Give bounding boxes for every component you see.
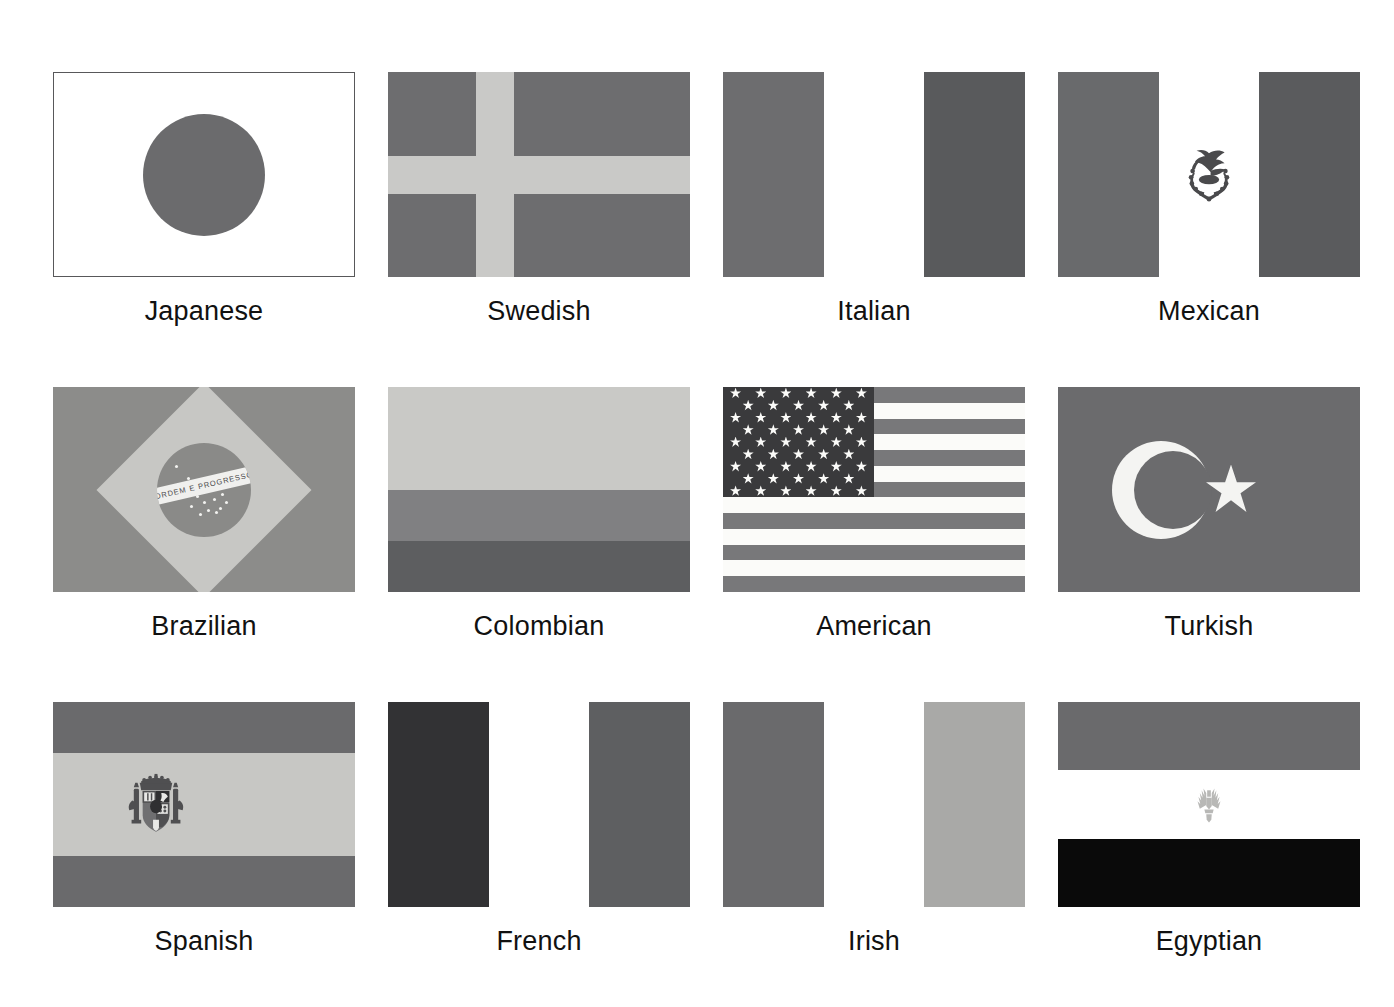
colombian-band-2 xyxy=(388,541,690,592)
french-tricolor-bands xyxy=(388,702,690,907)
egyptian-band-0 xyxy=(1058,702,1360,770)
american-star xyxy=(743,473,754,484)
american-stripe xyxy=(723,497,1025,513)
american-star xyxy=(856,388,867,399)
american-star xyxy=(818,473,829,484)
spanish-band-2 xyxy=(53,856,355,907)
american-star xyxy=(806,485,817,496)
flag-image-mexican xyxy=(1058,72,1360,277)
american-star xyxy=(843,473,854,484)
american-star xyxy=(768,449,779,460)
egyptian-band-2 xyxy=(1058,839,1360,907)
american-star xyxy=(793,400,804,411)
flag-label-brazilian: Brazilian xyxy=(53,611,355,642)
flag-image-italian xyxy=(723,72,1025,277)
flag-cell-swedish[interactable]: Swedish xyxy=(388,72,723,387)
american-star xyxy=(818,400,829,411)
american-star xyxy=(730,412,741,423)
american-star xyxy=(818,424,829,435)
flag-image-american xyxy=(723,387,1025,592)
french-band-2 xyxy=(589,702,690,907)
american-star xyxy=(755,485,766,496)
spanish-coat-of-arms-icon xyxy=(119,768,193,842)
flag-image-brazilian: ORDEM E PROGRESSO xyxy=(53,387,355,592)
italian-band-1 xyxy=(824,72,925,277)
flag-cell-egyptian[interactable]: Egyptian xyxy=(1058,702,1393,1007)
flag-cell-spanish[interactable]: Spanish xyxy=(53,702,388,1007)
colombian-band-1 xyxy=(388,490,690,541)
flag-cell-french[interactable]: French xyxy=(388,702,723,1007)
flag-label-italian: Italian xyxy=(723,296,1025,327)
flag-cell-american[interactable]: American xyxy=(723,387,1058,702)
flag-image-egyptian xyxy=(1058,702,1360,907)
flag-cell-italian[interactable]: Italian xyxy=(723,72,1058,387)
nordic-cross-vertical-icon xyxy=(476,72,514,277)
american-star xyxy=(780,388,791,399)
flag-image-french xyxy=(388,702,690,907)
colombian-tricolor-bands xyxy=(388,387,690,592)
american-star xyxy=(730,461,741,472)
flag-cell-turkish[interactable]: Turkish xyxy=(1058,387,1393,702)
irish-band-0 xyxy=(723,702,824,907)
flag-cell-brazilian[interactable]: ORDEM E PROGRESSO Brazilian xyxy=(53,387,388,702)
american-star xyxy=(843,449,854,460)
irish-band-1 xyxy=(824,702,925,907)
american-star xyxy=(806,412,817,423)
american-star xyxy=(780,461,791,472)
american-star xyxy=(793,473,804,484)
spanish-band-0 xyxy=(53,702,355,753)
flag-image-spanish xyxy=(53,702,355,907)
flag-image-colombian xyxy=(388,387,690,592)
italian-tricolor-bands xyxy=(723,72,1025,277)
american-star xyxy=(843,400,854,411)
flag-label-spanish: Spanish xyxy=(53,926,355,957)
american-star xyxy=(730,437,741,448)
red-sun-disc-icon xyxy=(143,114,265,236)
american-star xyxy=(730,485,741,496)
american-star xyxy=(780,437,791,448)
american-star xyxy=(768,424,779,435)
flag-label-turkish: Turkish xyxy=(1058,611,1360,642)
flag-label-american: American xyxy=(723,611,1025,642)
american-star xyxy=(856,485,867,496)
american-star xyxy=(856,437,867,448)
flag-cell-japanese[interactable]: Japanese xyxy=(53,72,388,387)
american-canton xyxy=(723,387,874,497)
american-star xyxy=(793,424,804,435)
flag-image-turkish xyxy=(1058,387,1360,592)
american-star xyxy=(768,473,779,484)
american-star xyxy=(843,424,854,435)
colombian-band-0 xyxy=(388,387,690,490)
american-star xyxy=(768,400,779,411)
flag-cell-colombian[interactable]: Colombian xyxy=(388,387,723,702)
crescent-cutout xyxy=(1134,451,1212,529)
irish-band-2 xyxy=(924,702,1025,907)
flag-cell-irish[interactable]: Irish xyxy=(723,702,1058,1007)
american-star xyxy=(793,449,804,460)
american-star xyxy=(743,449,754,460)
american-star xyxy=(856,461,867,472)
mexican-band-0 xyxy=(1058,72,1159,277)
american-star xyxy=(780,485,791,496)
flag-label-japanese: Japanese xyxy=(53,296,355,327)
spanish-bands xyxy=(53,702,355,907)
flag-label-egyptian: Egyptian xyxy=(1058,926,1360,957)
american-star xyxy=(806,461,817,472)
mexican-coat-of-arms-eagle-icon xyxy=(1170,136,1248,214)
american-star xyxy=(831,412,842,423)
american-star xyxy=(831,437,842,448)
american-stripe xyxy=(723,560,1025,576)
flag-cell-mexican[interactable]: Mexican xyxy=(1058,72,1393,387)
flag-image-irish xyxy=(723,702,1025,907)
nordic-cross-horizontal-icon xyxy=(388,156,690,194)
flag-image-japanese xyxy=(53,72,355,277)
flag-label-swedish: Swedish xyxy=(388,296,690,327)
american-star xyxy=(806,388,817,399)
american-stripe xyxy=(723,576,1025,592)
french-band-1 xyxy=(489,702,590,907)
american-star xyxy=(743,424,754,435)
american-star xyxy=(806,437,817,448)
american-star xyxy=(831,485,842,496)
american-stripe xyxy=(723,529,1025,545)
italian-band-0 xyxy=(723,72,824,277)
